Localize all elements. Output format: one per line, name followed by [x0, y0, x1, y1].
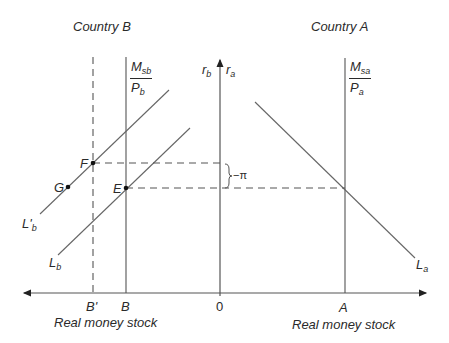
msb-m: M	[131, 59, 142, 74]
rb-sub: b	[206, 69, 211, 79]
tick-b-prime: B'	[86, 300, 97, 313]
minus-pi-label: −π	[233, 170, 247, 181]
pb-p: P	[131, 80, 140, 95]
label-e: E	[113, 182, 122, 195]
la-curve	[255, 102, 415, 258]
lb-prime-curve	[40, 90, 169, 214]
msa-sub: sa	[361, 66, 371, 76]
x-label-right: Real money stock	[292, 318, 395, 331]
country-a-title: Country A	[311, 20, 368, 33]
lb-prime-label: L'b	[22, 217, 37, 233]
lbp-sub: b	[32, 223, 37, 233]
point-f	[91, 161, 96, 166]
label-g: G	[54, 181, 64, 194]
lb-sub: b	[56, 262, 61, 272]
point-e	[124, 186, 129, 191]
supply-b-label: Msb Pb	[130, 60, 152, 97]
diagram-canvas: Country B Country A rb ra Msb Pb Msa Pa …	[0, 0, 449, 343]
lb-curve	[58, 128, 190, 255]
pb-sub: b	[140, 87, 145, 97]
tick-zero: 0	[216, 300, 223, 313]
lb-label: Lb	[49, 256, 61, 272]
tick-b: B	[121, 300, 130, 313]
pi-brace	[225, 164, 232, 188]
msb-sub: sb	[142, 66, 152, 76]
country-b-title: Country B	[73, 20, 131, 33]
rb-axis-label: rb	[202, 63, 211, 79]
ra-axis-label: ra	[226, 63, 235, 79]
x-label-left: Real money stock	[54, 316, 157, 329]
label-f: F	[80, 157, 88, 170]
ra-sub: a	[230, 69, 235, 79]
point-g	[66, 185, 71, 190]
tick-a: A	[339, 301, 348, 314]
supply-a-label: Msa Pa	[349, 60, 371, 97]
la-sub: a	[423, 264, 428, 274]
pa-sub: a	[359, 87, 364, 97]
la-label: La	[416, 258, 428, 274]
msa-m: M	[350, 59, 361, 74]
diagram-svg	[0, 0, 449, 343]
pa-p: P	[350, 80, 359, 95]
